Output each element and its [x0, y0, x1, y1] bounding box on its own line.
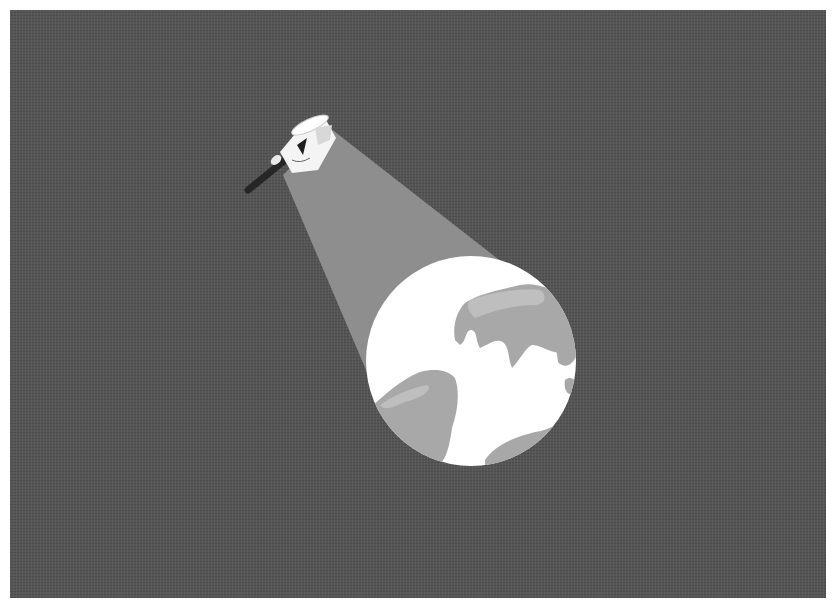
earth-globe	[366, 256, 580, 470]
illustration-scene	[0, 0, 832, 603]
